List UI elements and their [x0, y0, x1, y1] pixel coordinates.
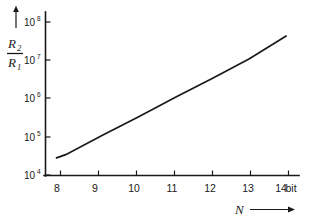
- y-tick-exp-1e5: 5: [37, 130, 41, 137]
- y-axis-title-numerator: R: [7, 36, 16, 51]
- y-tick-label-1e5: 10: [24, 132, 36, 143]
- chart-figure: 10 8 10 7 10 6 10 5 10 4 R 2 R 1: [0, 0, 310, 222]
- y-tick-label-1e6: 10: [24, 93, 36, 104]
- y-tick-exp-1e4: 4: [37, 168, 41, 175]
- y-axis-up-arrow-icon: [13, 6, 19, 29]
- x-axis-title: N: [234, 202, 295, 217]
- y-tick-exp-1e6: 6: [37, 91, 41, 98]
- y-tick-label-1e4: 10: [24, 170, 36, 181]
- y-axis-title-numerator-sub: 2: [17, 43, 22, 53]
- x-tick-label-10: 10: [128, 182, 140, 194]
- x-tick-label-13: 13: [242, 182, 254, 194]
- x-tick-label-11: 11: [167, 182, 178, 194]
- chart-plot-area: 10 8 10 7 10 6 10 5 10 4 R 2 R 1: [0, 0, 310, 222]
- x-tick-label-12: 12: [204, 182, 216, 194]
- x-axis-unit-label: bit: [285, 182, 296, 194]
- y-tick-label-1e7: 10: [24, 55, 36, 66]
- data-series-line: [57, 36, 287, 158]
- y-axis-title-denominator-sub: 1: [17, 62, 21, 72]
- x-axis-title-symbol: N: [234, 202, 245, 217]
- y-tick-labels: 10 8 10 7 10 6 10 5 10 4: [24, 15, 41, 181]
- x-tick-label-9: 9: [92, 182, 98, 194]
- x-tick-label-8: 8: [54, 182, 60, 194]
- y-axis-title-denominator: R: [7, 55, 16, 70]
- x-tick-labels: 8 9 10 11 12 13 14 bit: [54, 182, 297, 194]
- x-axis-right-arrow-icon: [250, 207, 295, 213]
- y-axis-title: R 2 R 1: [7, 6, 23, 73]
- y-tick-label-1e8: 10: [24, 17, 36, 28]
- y-tick-exp-1e7: 7: [37, 53, 41, 60]
- y-tick-exp-1e8: 8: [37, 15, 41, 22]
